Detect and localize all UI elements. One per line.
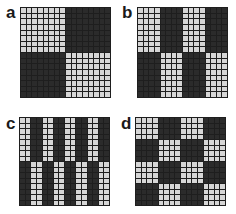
dark-cell — [220, 173, 225, 178]
dark-cell — [147, 184, 152, 189]
dark-cell — [220, 162, 225, 167]
light-cell — [192, 179, 197, 184]
dark-cell — [88, 179, 93, 184]
dark-cell — [206, 19, 211, 24]
dark-cell — [55, 87, 60, 92]
light-cell — [37, 179, 42, 184]
dark-cell — [105, 36, 110, 41]
light-cell — [88, 151, 93, 156]
dark-cell — [164, 168, 169, 173]
light-cell — [32, 14, 37, 19]
dark-cell — [105, 19, 110, 24]
light-cell — [99, 184, 104, 189]
dark-cell — [204, 173, 209, 178]
light-cell — [94, 87, 99, 92]
dark-cell — [153, 146, 158, 151]
dark-cell — [71, 184, 76, 189]
dark-cell — [183, 87, 188, 92]
dark-cell — [136, 157, 141, 162]
light-cell — [48, 124, 53, 129]
dark-cell — [204, 162, 209, 167]
light-cell — [200, 19, 205, 24]
dark-cell — [100, 47, 105, 52]
dark-cell — [177, 19, 182, 24]
light-cell — [149, 36, 154, 41]
dark-cell — [77, 8, 82, 13]
light-cell — [217, 53, 222, 58]
light-cell — [217, 81, 222, 86]
light-cell — [21, 31, 26, 36]
light-cell — [211, 53, 216, 58]
dark-cell — [49, 59, 54, 64]
light-cell — [142, 162, 147, 167]
dark-cell — [72, 8, 77, 13]
light-cell — [159, 157, 164, 162]
dark-cell — [27, 70, 32, 75]
light-cell — [76, 173, 81, 178]
dark-cell — [32, 81, 37, 86]
dark-cell — [172, 8, 177, 13]
light-cell — [88, 129, 93, 134]
light-cell — [21, 19, 26, 24]
light-cell — [105, 87, 110, 92]
panel-label-d: d — [121, 115, 131, 132]
light-cell — [198, 124, 203, 129]
dark-cell — [44, 70, 49, 75]
dark-cell — [93, 184, 98, 189]
light-cell — [82, 173, 87, 178]
light-cell — [89, 81, 94, 86]
dark-cell — [198, 140, 203, 145]
light-cell — [166, 64, 171, 69]
light-cell — [77, 53, 82, 58]
dark-cell — [60, 70, 65, 75]
light-cell — [183, 47, 188, 52]
light-cell — [100, 59, 105, 64]
light-cell — [49, 14, 54, 19]
dark-cell — [89, 42, 94, 47]
dark-cell — [194, 87, 199, 92]
light-cell — [217, 92, 222, 97]
light-cell — [65, 146, 70, 151]
light-cell — [161, 87, 166, 92]
dark-cell — [104, 146, 109, 151]
light-cell — [77, 76, 82, 81]
light-cell — [66, 76, 71, 81]
dark-cell — [149, 53, 154, 58]
light-cell — [222, 81, 227, 86]
light-cell — [187, 179, 192, 184]
light-cell — [209, 151, 214, 156]
dark-cell — [189, 92, 194, 97]
dark-cell — [71, 195, 76, 200]
dark-cell — [222, 47, 227, 52]
light-cell — [177, 53, 182, 58]
light-cell — [172, 76, 177, 81]
light-cell — [66, 64, 71, 69]
light-cell — [100, 87, 105, 92]
dark-cell — [83, 31, 88, 36]
light-cell — [71, 135, 76, 140]
light-cell — [72, 70, 77, 75]
light-cell — [89, 92, 94, 97]
dark-cell — [200, 76, 205, 81]
dark-cell — [144, 87, 149, 92]
light-cell — [43, 135, 48, 140]
dark-cell — [159, 168, 164, 173]
light-cell — [149, 14, 154, 19]
dark-cell — [55, 59, 60, 64]
dark-cell — [71, 173, 76, 178]
light-cell — [211, 70, 216, 75]
light-cell — [204, 195, 209, 200]
dark-cell — [72, 14, 77, 19]
light-cell — [72, 81, 77, 86]
dark-cell — [44, 92, 49, 97]
light-cell — [192, 118, 197, 123]
dark-cell — [170, 124, 175, 129]
dark-cell — [49, 53, 54, 58]
light-cell — [32, 19, 37, 24]
dark-cell — [77, 31, 82, 36]
dark-cell — [138, 64, 143, 69]
dark-cell — [60, 64, 65, 69]
dark-cell — [149, 81, 154, 86]
light-cell — [222, 53, 227, 58]
light-cell — [43, 151, 48, 156]
